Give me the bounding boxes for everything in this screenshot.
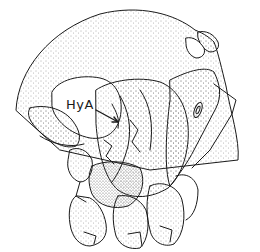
annotation-label-hya: HyA <box>66 97 94 112</box>
leg-3 <box>147 184 184 246</box>
leg-2 <box>113 196 148 249</box>
crab-illustration <box>0 0 260 252</box>
